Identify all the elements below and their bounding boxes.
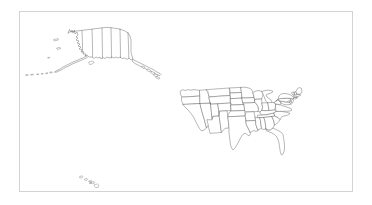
state-AK-alaska-peninsula[interactable]	[55, 56, 88, 72]
us-map-figure	[0, 0, 372, 205]
state-SD[interactable]	[230, 93, 242, 99]
island-pribilof[interactable]	[48, 57, 50, 58]
island-panhandle-5[interactable]	[156, 77, 160, 80]
state-HI-oahu[interactable]	[85, 178, 88, 180]
alaska-inset	[26, 28, 161, 80]
state-OH[interactable]	[268, 103, 276, 111]
state-MN[interactable]	[241, 87, 254, 98]
state-MI[interactable]	[262, 90, 273, 103]
state-ME[interactable]	[296, 88, 302, 95]
island-aleutian-6[interactable]	[26, 75, 28, 76]
island-aleutian-1[interactable]	[50, 72, 52, 73]
contiguous-states	[180, 87, 302, 155]
island-aleutian-4[interactable]	[37, 74, 39, 75]
state-CT[interactable]	[294, 97, 297, 99]
state-HI-lanai[interactable]	[90, 183, 91, 184]
state-AR[interactable]	[245, 112, 255, 121]
island-aleutian-3[interactable]	[42, 73, 44, 74]
island-kodiak[interactable]	[89, 61, 94, 65]
state-WA[interactable]	[180, 90, 200, 98]
island-st-lawrence[interactable]	[54, 39, 59, 41]
state-HI-kauai[interactable]	[80, 176, 83, 178]
us-map-canvas	[0, 0, 372, 205]
state-OK[interactable]	[228, 111, 245, 117]
state-WI[interactable]	[253, 91, 263, 100]
island-aleutian-5[interactable]	[31, 74, 33, 75]
state-HI-big-island[interactable]	[94, 184, 99, 188]
state-VA[interactable]	[276, 104, 293, 112]
state-AK-panhandle[interactable]	[133, 60, 161, 76]
state-KS[interactable]	[231, 105, 245, 112]
state-HI-molokai[interactable]	[89, 181, 92, 182]
state-NY[interactable]	[278, 94, 294, 100]
island-aleutian-2[interactable]	[46, 73, 48, 74]
state-FL[interactable]	[266, 128, 285, 155]
state-HI-maui[interactable]	[91, 182, 95, 184]
state-IA[interactable]	[242, 98, 255, 104]
island-nunivak[interactable]	[57, 47, 61, 49]
state-ND[interactable]	[230, 87, 242, 93]
state-VT[interactable]	[292, 92, 295, 95]
hawaii-inset	[80, 176, 99, 188]
state-WY[interactable]	[209, 96, 230, 105]
state-OR[interactable]	[182, 96, 201, 104]
state-AK-mainland[interactable]	[68, 28, 133, 61]
state-NE[interactable]	[231, 98, 244, 105]
